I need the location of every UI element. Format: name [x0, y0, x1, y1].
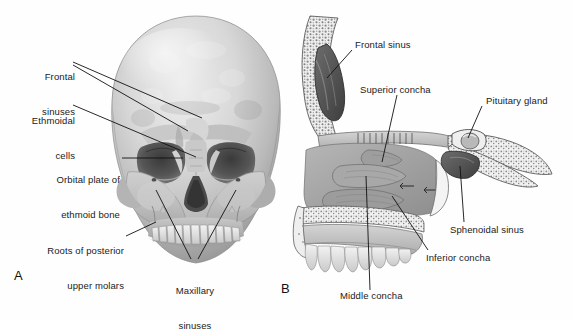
panel-a-skull-illustration — [112, 16, 281, 263]
label-roots-molars-line1: Roots of posterior — [0, 245, 124, 257]
label-maxillary-sinuses-line2: sinuses — [155, 320, 235, 332]
label-maxillary-sinuses: Maxillary sinuses — [155, 262, 235, 333]
label-sphenoidal-sinus: Sphenoidal sinus — [450, 224, 524, 236]
panel-letter-a: A — [14, 268, 23, 283]
label-inferior-concha: Inferior concha — [426, 252, 490, 264]
label-ethmoidal-cells-line1: Ethmoidal — [0, 115, 75, 127]
label-maxillary-sinuses-line1: Maxillary — [155, 285, 235, 297]
label-pituitary-gland: Pituitary gland — [486, 95, 548, 107]
panel-letter-b: B — [281, 281, 290, 296]
label-orbital-plate-line2: ethmoid bone — [0, 209, 120, 221]
label-frontal-sinus: Frontal sinus — [355, 39, 411, 51]
label-middle-concha: Middle concha — [340, 290, 403, 302]
label-frontal-sinuses-line1: Frontal — [0, 71, 75, 83]
label-orbital-plate-line1: Orbital plate of — [0, 174, 120, 186]
label-superior-concha: Superior concha — [360, 84, 431, 96]
